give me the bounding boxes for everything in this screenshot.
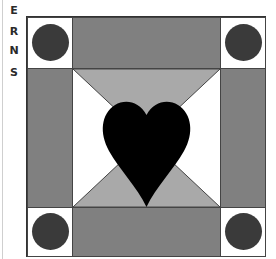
side-letter: R (8, 25, 20, 38)
corner-square-top-left (27, 17, 73, 69)
band-right (220, 68, 266, 208)
band-bottom (72, 207, 221, 257)
side-letter: E (8, 4, 20, 17)
corner-square-bottom-left (27, 207, 73, 257)
circle-icon (225, 24, 262, 61)
band-left (27, 68, 73, 208)
corner-square-top-right (220, 17, 266, 69)
quilt-block (26, 16, 266, 257)
side-letter: N (8, 44, 20, 57)
circle-icon (32, 24, 69, 61)
side-letter: S (8, 66, 20, 79)
corner-square-bottom-right (220, 207, 266, 257)
heart-envelope-graphic (73, 69, 220, 207)
band-top (72, 17, 221, 69)
circle-icon (32, 213, 69, 250)
center-square (72, 68, 221, 208)
circle-icon (225, 213, 262, 250)
page-margin-rule (2, 0, 3, 259)
